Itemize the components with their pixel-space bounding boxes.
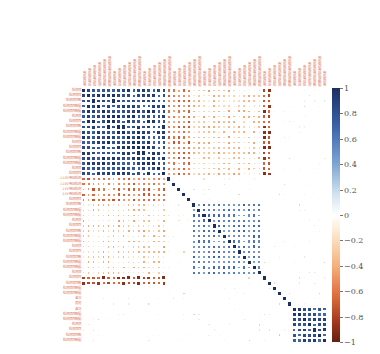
heatmap-cell — [107, 229, 110, 232]
heatmap-cell — [247, 224, 251, 228]
heatmap-cell — [262, 166, 266, 170]
heatmap-cell — [247, 99, 251, 103]
heatmap-cell — [207, 208, 211, 212]
heatmap-cell — [167, 266, 170, 269]
heatmap-cell — [152, 214, 155, 218]
heatmap-cell — [303, 105, 306, 108]
heatmap-cell — [313, 167, 316, 170]
heatmap-cell — [192, 99, 195, 103]
heatmap-cell — [141, 125, 146, 130]
heatmap-cell — [81, 177, 85, 181]
heatmap-cell — [101, 275, 106, 280]
heatmap-cell — [213, 328, 216, 331]
heatmap-cell — [97, 208, 101, 212]
heatmap-cell — [257, 120, 261, 124]
heatmap-cell — [87, 229, 91, 233]
heatmap-cell — [81, 140, 85, 145]
heatmap-cell — [131, 114, 136, 119]
heatmap-cell — [267, 99, 271, 103]
heatmap-cell — [147, 339, 150, 342]
heatmap-cell — [146, 276, 151, 281]
heatmap-cell — [131, 119, 136, 124]
heatmap-cell — [212, 219, 216, 223]
heatmap-cell — [248, 282, 251, 285]
heatmap-cell — [232, 120, 236, 124]
heatmap-cell — [162, 214, 165, 218]
heatmap-cell — [142, 234, 146, 238]
heatmap-cell — [182, 109, 186, 113]
heatmap-cell — [142, 271, 145, 274]
heatmap-cell — [117, 203, 120, 207]
heatmap-cell — [91, 140, 96, 145]
heatmap-cell — [146, 171, 151, 176]
heatmap-cell — [208, 198, 211, 201]
heatmap-cell — [248, 105, 251, 108]
heatmap-cell — [303, 89, 306, 92]
heatmap-cell — [172, 115, 176, 119]
heatmap-cell — [182, 230, 185, 233]
heatmap-cell — [86, 156, 91, 161]
heatmap-cell — [122, 219, 126, 223]
heatmap-cell — [242, 120, 245, 123]
heatmap-cell — [232, 146, 236, 150]
heatmap-cell — [92, 328, 95, 331]
heatmap-cell — [243, 141, 246, 144]
heatmap-cell — [267, 140, 271, 144]
heatmap-cell — [207, 266, 211, 270]
heatmap-cell — [121, 120, 125, 125]
heatmap-cell — [207, 229, 211, 233]
heatmap-cell — [96, 151, 100, 156]
heatmap-cell — [182, 297, 185, 300]
heatmap-cell — [258, 99, 261, 102]
heatmap-cell — [212, 99, 216, 103]
heatmap-cell — [87, 224, 91, 228]
heatmap-cell — [227, 167, 231, 171]
heatmap-cell — [102, 281, 106, 285]
heatmap-cell — [222, 245, 226, 249]
heatmap-cell — [122, 214, 125, 218]
heatmap-cell — [232, 271, 236, 275]
heatmap-cell — [207, 334, 210, 337]
heatmap-cell — [157, 219, 160, 222]
colorbar-tickmark — [340, 240, 343, 241]
heatmap-cell — [126, 125, 130, 130]
heatmap-cell — [136, 171, 141, 176]
heatmap-cell — [112, 255, 115, 258]
heatmap-cell — [172, 140, 176, 144]
heatmap-cell — [87, 240, 90, 243]
heatmap-cell — [262, 161, 266, 165]
heatmap-cell — [267, 156, 271, 160]
heatmap-cell — [106, 140, 111, 145]
heatmap-cell — [232, 130, 236, 134]
heatmap-cell — [187, 334, 190, 337]
heatmap-cell — [192, 250, 196, 254]
heatmap-cell — [162, 229, 166, 233]
heatmap-cell — [258, 313, 261, 316]
heatmap-cell — [126, 88, 131, 93]
heatmap-cell — [127, 302, 130, 305]
heatmap-cell — [96, 166, 101, 171]
heatmap-cell — [82, 209, 85, 213]
heatmap-cell — [298, 261, 301, 264]
heatmap-cell — [81, 99, 86, 104]
heatmap-cell — [157, 271, 160, 275]
heatmap-cell — [302, 328, 307, 333]
heatmap-cell — [117, 313, 120, 316]
heatmap-cell — [112, 308, 115, 311]
heatmap-cell — [237, 255, 241, 259]
heatmap-cell — [197, 234, 201, 238]
heatmap-cell — [192, 208, 196, 212]
heatmap-cell — [252, 94, 256, 98]
heatmap-cell — [247, 151, 251, 155]
heatmap-cell — [197, 89, 200, 93]
heatmap-cell — [122, 271, 125, 274]
heatmap-cell — [197, 239, 201, 243]
heatmap-cell — [81, 104, 85, 109]
heatmap-cell — [237, 224, 241, 228]
heatmap-cell — [127, 208, 131, 212]
heatmap-cell — [187, 172, 191, 176]
heatmap-cell — [192, 271, 196, 275]
heatmap-cell — [142, 187, 146, 191]
heatmap-cell — [257, 229, 261, 233]
heatmap-cell — [117, 250, 121, 254]
